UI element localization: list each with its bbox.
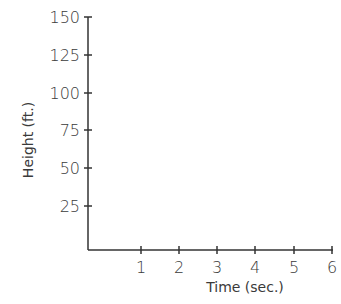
x-axis: 1 2 3 4 5 6 Time (sec.): [88, 246, 337, 295]
chart: 150 125 100 75 50 25 Height (ft.) 1 2 3 …: [0, 0, 341, 304]
y-tick-label: 75: [60, 121, 80, 140]
y-tick-label: 125: [49, 46, 80, 65]
y-tick-label: 25: [60, 197, 80, 216]
x-tick-label: 1: [136, 258, 146, 277]
x-tick-label: 4: [250, 258, 260, 277]
y-tick-label: 50: [60, 159, 80, 178]
y-tick-label: 100: [49, 84, 80, 103]
y-axis: 150 125 100 75 50 25 Height (ft.): [20, 8, 92, 250]
x-tick-label: 2: [174, 258, 184, 277]
x-tick-label: 5: [289, 258, 299, 277]
x-tick-label: 3: [212, 258, 222, 277]
y-tick-label: 150: [49, 8, 80, 27]
y-axis-label: Height (ft.): [20, 102, 36, 178]
x-axis-label: Time (sec.): [205, 279, 284, 295]
x-tick-label: 6: [327, 258, 337, 277]
